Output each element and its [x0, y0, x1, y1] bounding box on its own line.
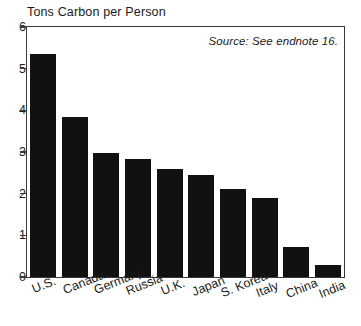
bar-chart: Tons Carbon per Person 0123456 Source: S…	[0, 0, 361, 326]
chart-title: Tons Carbon per Person	[27, 5, 166, 20]
x-axis-labels: U.S.CanadaGermanyRussiaU.K.JapanS. Korea…	[0, 278, 361, 326]
bar-italy	[252, 198, 278, 277]
x-tick-label-china: China	[284, 276, 320, 301]
bar-china	[283, 247, 309, 277]
x-tick-label-u-s: U.S.	[30, 274, 58, 296]
bar-u-k	[157, 169, 183, 277]
bar-india	[315, 265, 341, 277]
bar-s-korea	[220, 189, 246, 277]
bar-u-s	[30, 54, 56, 277]
bars-container	[27, 27, 344, 277]
bar-russia	[125, 159, 151, 277]
bar-germany	[93, 153, 119, 277]
x-tick-label-india: India	[317, 278, 347, 301]
bar-japan	[188, 175, 214, 278]
bar-canada	[62, 117, 88, 277]
